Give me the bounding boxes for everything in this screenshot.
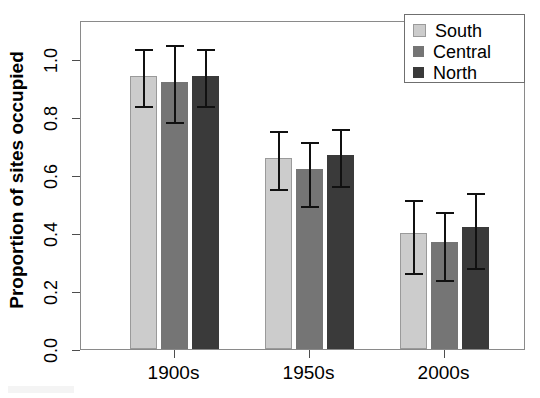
scan-artifact xyxy=(8,386,74,393)
error-bar-cap-upper xyxy=(405,200,423,202)
legend-item: Central xyxy=(413,41,491,62)
legend-swatch xyxy=(413,24,426,37)
y-axis-tick-mark xyxy=(72,176,80,177)
error-bar-stem xyxy=(413,200,415,273)
y-axis-tick-label: 0.6 xyxy=(30,166,74,186)
y-axis-tick-mark xyxy=(72,60,80,61)
error-bar-stem xyxy=(174,45,176,122)
y-axis-title-container: Proportion of sites occupied xyxy=(0,0,34,360)
y-axis-tick-label: 0.8 xyxy=(30,108,74,128)
legend-label: North xyxy=(433,64,477,82)
error-bar-stem xyxy=(475,193,477,268)
legend-label: South xyxy=(435,22,482,40)
x-axis-tick-mark xyxy=(444,350,445,358)
error-bar-stem xyxy=(143,49,145,106)
y-axis-tick-label: 1.0 xyxy=(30,50,74,70)
error-bar-cap-lower xyxy=(301,206,319,208)
y-axis-tick-mark xyxy=(72,118,80,119)
legend-swatch xyxy=(413,67,424,78)
error-bar-stem xyxy=(278,131,280,189)
error-bar-cap-lower xyxy=(405,273,423,275)
error-bar-cap-upper xyxy=(467,193,485,195)
legend-item: South xyxy=(413,20,482,41)
y-axis-tick-mark xyxy=(72,350,80,351)
legend-label: Central xyxy=(433,43,491,61)
figure-bar-chart: Proportion of sites occupied 0.00.20.40.… xyxy=(0,0,540,398)
y-axis-tick-mark xyxy=(72,234,80,235)
legend-swatch xyxy=(413,46,424,57)
error-bar-cap-upper xyxy=(197,49,215,51)
legend: SouthCentralNorth xyxy=(404,14,525,83)
error-bar-cap-lower xyxy=(332,186,350,188)
error-bar-cap-upper xyxy=(270,131,288,133)
x-axis-tick-mark xyxy=(309,350,310,358)
x-axis-tick-label: 1950s xyxy=(283,362,335,384)
error-bar-cap-lower xyxy=(467,268,485,270)
error-bar-cap-upper xyxy=(332,129,350,131)
error-bar-cap-lower xyxy=(135,106,153,108)
x-axis-tick-mark xyxy=(174,350,175,358)
error-bar-cap-upper xyxy=(166,45,184,47)
error-bar-cap-lower xyxy=(436,280,454,282)
y-axis-tick-label: 0.4 xyxy=(30,224,74,244)
error-bar-cap-lower xyxy=(197,106,215,108)
bar xyxy=(192,76,219,349)
bar xyxy=(130,76,157,349)
y-axis-tick-mark xyxy=(72,292,80,293)
y-axis-tick-label: 0.2 xyxy=(30,282,74,302)
x-axis-tick-label: 1900s xyxy=(148,362,200,384)
error-bar-stem xyxy=(340,129,342,186)
error-bar-cap-upper xyxy=(436,212,454,214)
error-bar-cap-lower xyxy=(270,189,288,191)
error-bar-stem xyxy=(205,49,207,106)
y-axis-tick-label: 0.0 xyxy=(30,340,74,360)
error-bar-cap-lower xyxy=(166,122,184,124)
error-bar-cap-upper xyxy=(135,49,153,51)
legend-item: North xyxy=(413,62,477,83)
error-bar-stem xyxy=(309,142,311,206)
y-axis-title: Proportion of sites occupied xyxy=(6,51,28,309)
error-bar-stem xyxy=(444,212,446,280)
x-axis-tick-label: 2000s xyxy=(418,362,470,384)
error-bar-cap-upper xyxy=(301,142,319,144)
